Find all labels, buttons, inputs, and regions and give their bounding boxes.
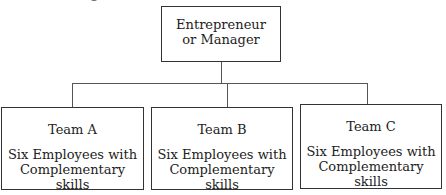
connector-horizontal-bus: [72, 83, 368, 84]
team-description-line2: Complementary skills: [2, 162, 143, 192]
team-description-line2: Complementary skills: [301, 159, 441, 189]
root-node-label-line1: Entrepreneur: [162, 17, 280, 32]
team-name: Team C: [301, 119, 441, 134]
team-description-line1: Six Employees with: [2, 147, 143, 162]
connector-root-down: [221, 62, 222, 83]
team-node-a: Team A Six Employees with Complementary …: [1, 107, 144, 190]
root-node-entrepreneur-manager: Entrepreneur or Manager: [161, 6, 281, 62]
connector-to-team-a: [72, 83, 73, 107]
cropped-text-fragment: [91, 0, 97, 1]
team-name: Team B: [152, 122, 292, 137]
connector-to-team-c: [367, 83, 368, 104]
team-description-line2: Complementary skills: [152, 162, 292, 192]
team-node-b: Team B Six Employees with Complementary …: [151, 107, 293, 190]
team-description-line1: Six Employees with: [152, 147, 292, 162]
root-node-label-line2: or Manager: [162, 32, 280, 47]
connector-to-team-b: [227, 83, 228, 107]
team-description-line1: Six Employees with: [301, 144, 441, 159]
team-node-c: Team C Six Employees with Complementary …: [300, 104, 442, 189]
team-name: Team A: [2, 122, 143, 137]
